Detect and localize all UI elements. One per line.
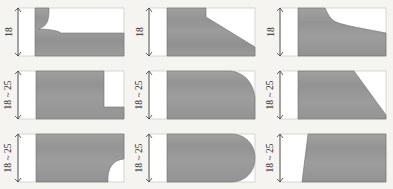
material-cross-section [167, 134, 255, 182]
profile-panel-large-chamfer[interactable]: 18 ~ 25 [262, 63, 393, 126]
dimension-label: 18 ~ 25 [134, 143, 144, 172]
dimension-label: 18 ~ 25 [3, 143, 13, 172]
profile-grid: 18 [0, 0, 393, 189]
profile-panel-cove-with-lip[interactable]: 18 [0, 0, 131, 63]
profile-panel-cove-notch[interactable]: 18 ~ 25 [0, 126, 131, 189]
profile-panel-ogee-sweep[interactable]: 18 [262, 0, 393, 63]
drawing-sheet: 18 [0, 0, 393, 189]
material-cross-section [302, 134, 386, 182]
dimension-label: 18 ~ 25 [265, 143, 275, 172]
profile-panel-rounded-corner[interactable]: 18 ~ 25 [131, 63, 262, 126]
dimension-label: 18 ~ 25 [3, 80, 13, 109]
dimension-label: 18 ~ 25 [265, 80, 275, 109]
material-cross-section [167, 71, 255, 119]
profile-panel-angled-left-square-right[interactable]: 18 ~ 25 [262, 126, 393, 189]
profile-panel-stepped-long-bevel[interactable]: 18 [131, 0, 262, 63]
dimension-label: 18 ~ 25 [134, 80, 144, 109]
dimension-label: 18 [266, 27, 276, 37]
dimension-label: 18 [4, 27, 14, 37]
profile-panel-full-bullnose[interactable]: 18 ~ 25 [131, 126, 262, 189]
dimension-label: 18 [135, 27, 145, 37]
profile-panel-rabbet-step[interactable]: 18 ~ 25 [0, 63, 131, 126]
